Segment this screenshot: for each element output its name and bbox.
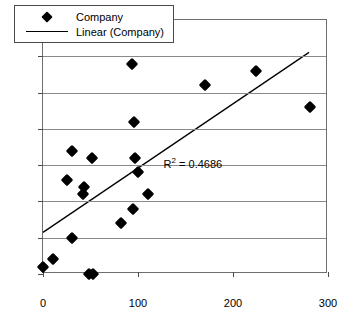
scatter-chart-figure: 051015202530350100200300 R2 = 0.4686 Com… xyxy=(0,0,347,312)
data-point xyxy=(60,173,73,186)
y-axis-tick xyxy=(38,56,43,57)
data-point xyxy=(126,57,139,70)
data-point xyxy=(127,202,140,215)
data-point xyxy=(37,260,50,273)
gridline xyxy=(43,129,326,130)
r2-prefix: R xyxy=(164,158,172,170)
chart-legend: Company Linear (Company) xyxy=(14,5,174,43)
legend-item-linear-company: Linear (Company) xyxy=(20,24,164,39)
x-axis-tick-label: 100 xyxy=(121,298,155,309)
data-point xyxy=(46,253,59,266)
y-axis-tick xyxy=(38,165,43,166)
gridline xyxy=(43,93,326,94)
gridline xyxy=(43,238,326,239)
plot-area: 051015202530350100200300 xyxy=(42,19,327,273)
x-axis-tick xyxy=(328,272,329,277)
data-point xyxy=(198,79,211,92)
y-axis-tick xyxy=(38,93,43,94)
line-marker-icon xyxy=(20,31,74,32)
r2-value: = 0.4686 xyxy=(176,158,222,170)
legend-label: Company xyxy=(74,10,123,24)
data-point xyxy=(304,101,317,114)
x-axis-tick xyxy=(138,272,139,277)
x-axis-tick xyxy=(233,272,234,277)
data-point xyxy=(86,152,99,165)
data-point xyxy=(129,152,142,165)
y-axis-tick xyxy=(38,238,43,239)
data-point xyxy=(65,144,78,157)
x-axis-tick-label: 0 xyxy=(26,298,60,309)
y-axis-tick xyxy=(38,201,43,202)
data-point xyxy=(132,166,145,179)
data-point xyxy=(141,188,154,201)
gridline xyxy=(43,56,326,57)
data-point xyxy=(65,231,78,244)
data-point xyxy=(249,64,262,77)
x-axis-tick-label: 200 xyxy=(216,298,250,309)
data-point xyxy=(115,217,128,230)
x-axis-tick-label: 300 xyxy=(311,298,345,309)
r-squared-annotation: R2 = 0.4686 xyxy=(164,155,223,170)
trendline xyxy=(43,20,326,272)
diamond-marker-icon xyxy=(20,13,74,21)
gridline xyxy=(43,201,326,202)
y-axis-tick xyxy=(38,129,43,130)
legend-label: Linear (Company) xyxy=(74,25,164,39)
legend-item-company: Company xyxy=(20,9,164,24)
data-point xyxy=(128,115,141,128)
